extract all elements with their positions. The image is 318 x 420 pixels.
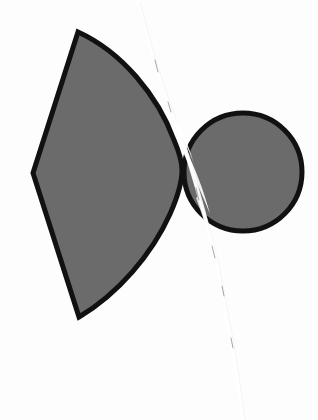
geometry-figure bbox=[0, 0, 318, 420]
scanned-page: 14. bbox=[0, 0, 318, 420]
